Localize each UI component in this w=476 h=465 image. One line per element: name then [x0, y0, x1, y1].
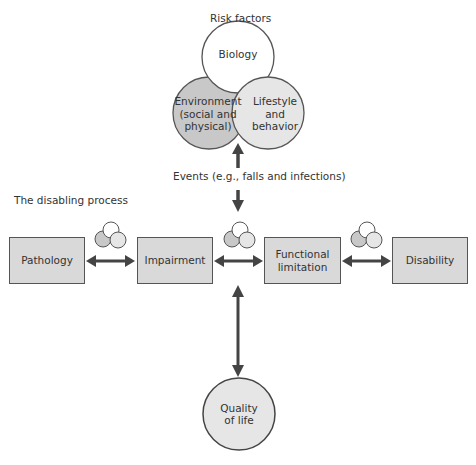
lifestyle-label: Lifestyle and behavior [252, 94, 298, 134]
stage-label: Functional limitation [276, 248, 330, 274]
quality-of-life-label: Quality of life [215, 394, 263, 434]
risk-factors-title: Risk factors [210, 12, 271, 24]
arrow-process-quality [232, 285, 244, 377]
stage-label: Disability [406, 254, 455, 267]
stage-disability: Disability [392, 237, 468, 284]
disabling-process-title: The disabling process [14, 194, 128, 206]
mini-venn-icon-1 [95, 222, 126, 248]
mini-venn-icon-3 [351, 222, 382, 248]
biology-label: Biology [202, 36, 274, 72]
mini-venn-icon-2 [224, 222, 255, 248]
arrow-functional-disability [342, 255, 391, 267]
environment-label: Environment (social and physical) [177, 94, 239, 134]
events-label: Events (e.g., falls and infections) [173, 170, 346, 182]
stage-label: Pathology [21, 254, 73, 267]
stage-pathology: Pathology [9, 237, 85, 284]
stage-functional-limitation: Functional limitation [264, 237, 341, 284]
arrow-pathology-impairment [86, 255, 135, 267]
arrow-impairment-functional [214, 255, 263, 267]
stage-label: Impairment [145, 254, 206, 267]
stage-impairment: Impairment [137, 237, 213, 284]
